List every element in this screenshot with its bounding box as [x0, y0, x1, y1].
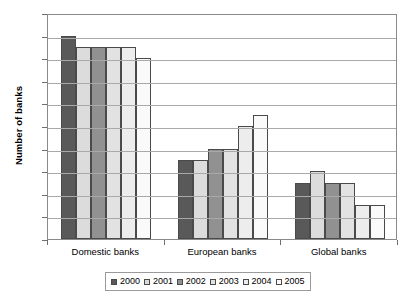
- legend-entry[interactable]: 2000: [109, 277, 142, 286]
- y-tick-mark: [42, 14, 47, 15]
- gridline: [48, 60, 396, 61]
- legend-label: 2000: [120, 277, 140, 286]
- bar: [136, 58, 151, 239]
- bar-chart: Number of banks 02468101214161820 Domest…: [0, 0, 416, 300]
- legend-label: 2004: [252, 277, 272, 286]
- x-tick-mark: [397, 240, 398, 245]
- bar-group: [281, 15, 398, 239]
- legend-label: 2001: [153, 277, 173, 286]
- gridline: [48, 173, 396, 174]
- y-tick-mark: [42, 127, 47, 128]
- bar: [238, 126, 253, 239]
- bar: [370, 205, 385, 239]
- bar: [106, 47, 121, 239]
- legend-entry[interactable]: 2002: [175, 277, 208, 286]
- y-tick-mark: [42, 150, 47, 151]
- x-category-label: Global banks: [311, 246, 366, 257]
- y-tick-mark: [42, 172, 47, 173]
- y-tick-mark: [42, 59, 47, 60]
- bar: [178, 160, 193, 239]
- gridline: [48, 151, 396, 152]
- bar: [253, 115, 268, 239]
- bar: [76, 47, 91, 239]
- y-tick-mark: [42, 195, 47, 196]
- bar: [193, 160, 208, 239]
- legend-label: 2003: [219, 277, 239, 286]
- y-tick-mark: [42, 217, 47, 218]
- legend: 200020012002200320042005: [105, 272, 311, 291]
- plot-area: [47, 14, 397, 240]
- bar-group: [165, 15, 282, 239]
- bar: [91, 47, 106, 239]
- gridline: [48, 105, 396, 106]
- legend-swatch-icon: [276, 279, 282, 285]
- bar: [295, 183, 310, 240]
- gridline: [48, 83, 396, 84]
- legend-entry[interactable]: 2001: [142, 277, 175, 286]
- gridline: [48, 38, 396, 39]
- y-axis-title: Number of banks: [13, 66, 24, 186]
- bars-layer: [48, 15, 396, 239]
- legend-label: 2005: [285, 277, 305, 286]
- legend-swatch-icon: [144, 279, 150, 285]
- y-tick-mark: [42, 37, 47, 38]
- x-tick-mark: [280, 240, 281, 245]
- gridline: [48, 128, 396, 129]
- bar: [121, 47, 136, 239]
- bar: [325, 183, 340, 240]
- x-category-label: European banks: [187, 246, 256, 257]
- y-tick-mark: [42, 82, 47, 83]
- legend-entry[interactable]: 2005: [274, 277, 307, 286]
- gridline: [48, 218, 396, 219]
- legend-swatch-icon: [243, 279, 249, 285]
- legend-swatch-icon: [177, 279, 183, 285]
- legend-swatch-icon: [210, 279, 216, 285]
- y-tick-mark: [42, 104, 47, 105]
- bar: [340, 183, 355, 240]
- bar-group: [48, 15, 165, 239]
- x-tick-mark: [164, 240, 165, 245]
- bar: [310, 171, 325, 239]
- gridline: [48, 196, 396, 197]
- legend-entry[interactable]: 2003: [208, 277, 241, 286]
- x-tick-mark: [47, 240, 48, 245]
- bar: [61, 36, 76, 239]
- x-category-label: Domestic banks: [72, 246, 140, 257]
- legend-label: 2002: [186, 277, 206, 286]
- legend-entry[interactable]: 2004: [241, 277, 274, 286]
- bar: [208, 149, 223, 239]
- bar: [355, 205, 370, 239]
- bar: [223, 149, 238, 239]
- legend-swatch-icon: [111, 279, 117, 285]
